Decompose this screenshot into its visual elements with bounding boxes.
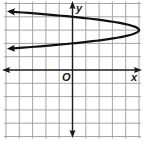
coordinate-plane: y x O (0, 0, 144, 141)
axes (2, 1, 142, 138)
y-axis-up-arrow-icon (70, 1, 76, 9)
origin-label: O (62, 71, 71, 83)
x-axis-label: x (130, 71, 138, 83)
y-axis-label: y (75, 2, 83, 14)
